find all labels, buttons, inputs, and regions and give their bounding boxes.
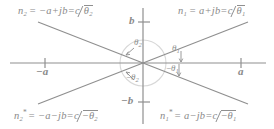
label-n1conj-star: * <box>169 108 173 117</box>
angle-label-negtheta2-sub: 2 <box>136 76 139 83</box>
angle-bracket-neg-theta2: −θ2 <box>79 110 97 122</box>
angle-label-neg-theta1: −θ1 <box>166 64 179 73</box>
angle-label-negtheta1-sub: 1 <box>176 67 179 74</box>
label-n1-angle-sub: 1 <box>242 10 246 17</box>
label-n2-conjugate: n2*= −a−jb=c−θ2 <box>14 110 98 122</box>
label-n2conj-expr: = −a−jb=c <box>28 110 79 121</box>
angle-label-theta1-sub: 1 <box>176 47 179 54</box>
label-n1-subscript: 1 <box>183 10 187 17</box>
angle-label-theta2: θ2 <box>134 38 142 47</box>
angle-label-negtheta1-glyph: θ <box>171 63 175 73</box>
label-n2-expr: = −a+jb=c <box>29 5 80 16</box>
angle-label-negtheta2-glyph: θ <box>131 72 135 82</box>
label-n2conj-angle-sub: 2 <box>94 115 98 122</box>
axis-label-minus-a: −a <box>36 66 48 77</box>
label-n1: n1= a+jb=cθ1 <box>178 5 245 17</box>
label-n2-angle-sub: 2 <box>89 10 93 17</box>
axis-label-a: a <box>238 66 244 77</box>
label-n2conj-star: * <box>23 108 27 117</box>
label-n1-expr: = a+jb=c <box>189 5 233 16</box>
label-n1conj-angle-sub: 1 <box>233 115 237 122</box>
angle-label-theta2-sub: 2 <box>138 41 141 48</box>
angle-label-neg-theta2: −θ2 <box>126 73 139 82</box>
angle-bracket-theta1: θ1 <box>233 5 245 17</box>
angle-label-theta1: θ1 <box>172 44 180 53</box>
theta2-pointer <box>126 48 134 55</box>
label-n2-subscript: 2 <box>23 10 27 17</box>
label-n1-conjugate: n1*= a−jb=c−θ1 <box>160 110 236 122</box>
angle-bracket-theta2: θ2 <box>80 5 92 17</box>
angle-bracket-neg-theta1: −θ1 <box>218 110 236 122</box>
axis-label-b: b <box>129 15 135 26</box>
label-n2: n2= −a+jb=cθ2 <box>18 5 93 17</box>
label-n1conj-expr: = a−jb=c <box>174 110 218 121</box>
axis-label-minus-b: −b <box>121 95 133 106</box>
